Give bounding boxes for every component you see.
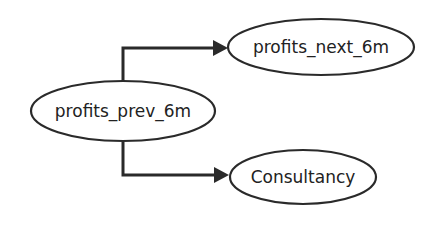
edge-prev-to-next bbox=[123, 40, 228, 81]
node-consultancy[interactable]: Consultancy bbox=[230, 150, 376, 204]
node-label: profits_next_6m bbox=[253, 37, 389, 58]
causal-diagram: profits_prev_6m profits_next_6m Consulta… bbox=[0, 0, 434, 246]
arrowhead-icon bbox=[213, 40, 228, 56]
node-label: Consultancy bbox=[251, 167, 356, 187]
node-profits-prev-6m[interactable]: profits_prev_6m bbox=[31, 81, 215, 141]
node-profits-next-6m[interactable]: profits_next_6m bbox=[228, 19, 414, 75]
arrowhead-icon bbox=[214, 167, 229, 183]
edge-prev-to-consultancy bbox=[123, 142, 229, 183]
node-label: profits_prev_6m bbox=[55, 101, 191, 122]
